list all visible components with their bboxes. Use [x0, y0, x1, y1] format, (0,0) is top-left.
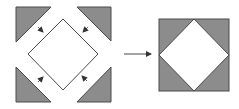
arrow-top-right-icon — [83, 27, 88, 32]
arrow-bottom-left-icon — [38, 77, 43, 82]
center-diamond — [28, 19, 98, 90]
triangle-bottom-right — [77, 67, 111, 102]
right-panel — [159, 19, 229, 91]
arrow-top-left-icon — [38, 27, 43, 32]
left-panel — [16, 7, 111, 102]
triangle-top-right — [77, 7, 111, 41]
diagram-canvas — [0, 0, 239, 109]
arrow-bottom-right-icon — [82, 76, 87, 81]
